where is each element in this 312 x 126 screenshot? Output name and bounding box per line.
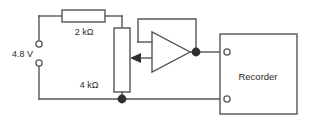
recorder-return-terminal	[224, 96, 230, 102]
series-resistor-label: 2 kΩ	[75, 27, 94, 37]
potentiometer-wiper-arrow	[130, 53, 141, 63]
series-resistor-body	[62, 10, 105, 22]
schematic-canvas: 4.8 V 2 kΩ 4 kΩ Recorder	[0, 0, 312, 126]
wiper-output-node	[192, 48, 201, 57]
positive-terminal	[36, 41, 42, 47]
potentiometer-body	[114, 28, 130, 92]
negative-terminal	[36, 60, 42, 66]
circuit-diagram: 4.8 V 2 kΩ 4 kΩ Recorder	[0, 0, 312, 126]
ground-node	[118, 95, 127, 104]
recorder-label: Recorder	[238, 71, 277, 82]
source-label: 4.8 V	[12, 49, 33, 59]
potentiometer-label: 4 kΩ	[80, 80, 99, 90]
recorder-input-terminal	[224, 49, 230, 55]
opamp-triangle	[152, 32, 190, 72]
